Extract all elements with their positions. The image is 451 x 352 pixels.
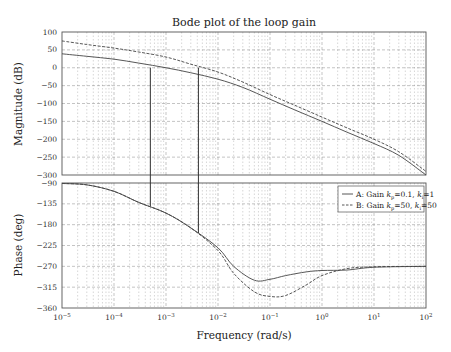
phase-tick-label: −180 xyxy=(36,220,57,229)
bode-plot: Bode plot of the loop gain 100500−50−100… xyxy=(0,0,451,352)
x-axis-label: Frequency (rad/s) xyxy=(196,329,291,341)
phase-tick-label: −315 xyxy=(36,283,57,292)
series-b-line xyxy=(62,41,426,171)
magnitude-tick-label: −100 xyxy=(36,99,57,108)
x-tick-label: 10−1 xyxy=(261,312,279,322)
phase-y-tick-labels: −90−135−180−225−270−315−360 xyxy=(36,179,57,313)
x-tick-label: 10−2 xyxy=(209,312,227,322)
magnitude-curves xyxy=(62,41,426,175)
x-tick-label: 10−3 xyxy=(157,312,175,322)
magnitude-tick-label: 0 xyxy=(52,63,57,72)
legend-entry-b: B: Gain kp=50, ki=50 xyxy=(356,201,437,212)
magnitude-tick-label: 50 xyxy=(47,45,57,54)
legend: A: Gain kp=0.1, ki=1 B: Gain kp=50, ki=5… xyxy=(338,186,437,212)
crossover-markers xyxy=(150,68,198,233)
phase-tick-label: −270 xyxy=(36,262,57,271)
magnitude-grid xyxy=(62,32,426,175)
magnitude-y-axis-label: Magnitude (dB) xyxy=(12,62,24,146)
chart-title: Bode plot of the loop gain xyxy=(172,16,316,29)
x-tick-label: 10−5 xyxy=(53,312,71,322)
phase-tick-label: −90 xyxy=(41,179,57,188)
x-tick-label: 101 xyxy=(367,312,380,322)
magnitude-tick-label: −50 xyxy=(41,81,57,90)
magnitude-tick-label: −150 xyxy=(36,117,57,126)
legend-entry-a: A: Gain kp=0.1, ki=1 xyxy=(355,190,434,201)
magnitude-tick-label: −250 xyxy=(36,153,57,162)
phase-tick-label: −225 xyxy=(36,241,57,250)
phase-tick-label: −360 xyxy=(36,304,57,313)
magnitude-y-tick-labels: 100500−50−100−150−200−250−300 xyxy=(36,28,57,180)
series-a-line xyxy=(62,54,426,175)
phase-y-axis-label: Phase (deg) xyxy=(12,214,24,277)
magnitude-tick-label: −200 xyxy=(36,135,57,144)
phase-tick-label: −135 xyxy=(36,199,57,208)
x-tick-labels: 10−510−410−310−210−1100101102 xyxy=(53,312,432,322)
x-tick-label: 10−4 xyxy=(105,312,123,322)
magnitude-tick-label: 100 xyxy=(43,28,58,37)
x-tick-label: 100 xyxy=(315,312,329,322)
x-tick-label: 102 xyxy=(419,312,432,322)
